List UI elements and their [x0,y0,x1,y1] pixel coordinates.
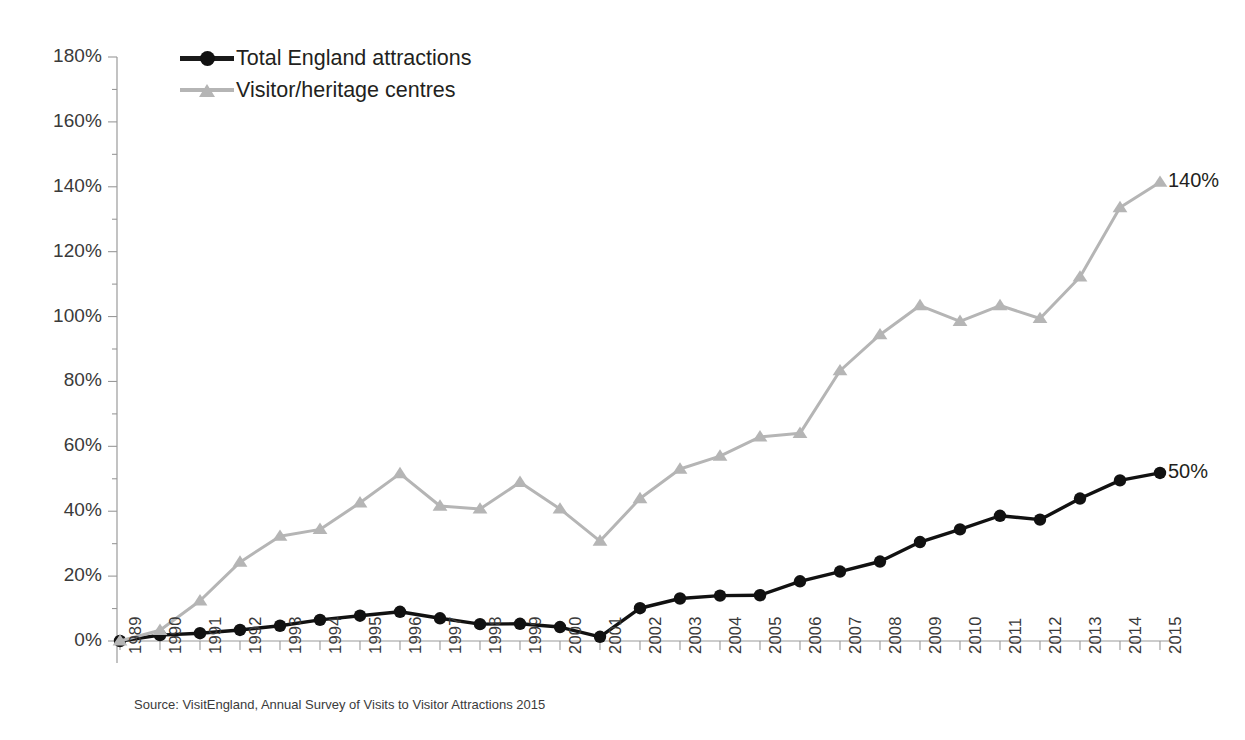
x-axis-tick-label: 1989 [126,616,145,654]
data-point-marker [393,467,408,478]
x-axis-tick-label: 2004 [726,616,745,654]
x-axis-tick-label: 2012 [1046,616,1065,654]
data-point-marker [514,618,526,630]
chart-legend: Total England attractions Visitor/herita… [180,42,471,106]
legend-label-0: Total England attractions [236,46,471,71]
data-point-marker [1034,513,1046,525]
y-axis-tick-label: 160% [42,110,102,132]
data-point-marker [834,565,846,577]
data-point-marker [554,621,566,633]
x-axis-tick-label: 1990 [166,616,185,654]
data-point-marker [954,523,966,535]
data-point-marker [914,536,926,548]
y-axis-tick-label: 60% [42,434,102,456]
x-axis-tick-label: 2009 [926,616,945,654]
y-axis-tick-label: 180% [42,45,102,67]
x-axis-tick-label: 1998 [486,616,505,654]
x-axis-tick-label: 2010 [966,616,985,654]
data-point-marker [434,612,446,624]
x-axis-tick-label: 2015 [1166,616,1185,654]
data-point-marker [794,575,806,587]
data-point-marker [513,476,528,487]
y-axis-tick-label: 100% [42,305,102,327]
x-axis-tick-label: 1993 [286,616,305,654]
legend-item-total-england-attractions: Total England attractions [180,42,471,74]
data-point-marker [793,427,808,438]
x-axis-tick-label: 2003 [686,616,705,654]
data-point-marker [394,606,406,618]
x-axis-tick-label: 1999 [526,616,545,654]
x-axis-tick-label: 2013 [1086,616,1105,654]
y-axis-tick-label: 40% [42,499,102,521]
x-axis-tick-label: 2001 [606,616,625,654]
legend-label-1: Visitor/heritage centres [236,78,456,103]
x-axis-tick-label: 1992 [246,616,265,654]
data-point-marker [274,620,286,632]
data-point-marker [1153,175,1168,186]
data-point-marker [874,555,886,567]
source-note: Source: VisitEngland, Annual Survey of V… [134,697,545,712]
data-point-marker [1154,467,1166,479]
data-point-marker [993,299,1008,310]
data-point-marker [994,510,1006,522]
legend-swatch-grey [180,79,234,101]
data-point-marker [1113,201,1128,212]
y-axis-tick-label: 80% [42,369,102,391]
y-axis-tick-label: 140% [42,175,102,197]
data-point-marker [634,602,646,614]
data-point-marker [194,627,206,639]
series-end-label: 50% [1168,460,1208,483]
data-point-marker [754,589,766,601]
series-line [120,182,1160,641]
x-axis-tick-label: 2002 [646,616,665,654]
data-point-marker [1074,492,1086,504]
line-chart: 0%20%40%60%80%100%120%140%160%180% 19891… [0,0,1245,740]
x-axis-tick-label: 2007 [846,616,865,654]
data-point-marker [594,631,606,643]
y-axis-tick-label: 0% [42,629,102,651]
data-point-marker [1114,474,1126,486]
x-axis-tick-label: 2014 [1126,616,1145,654]
x-axis-tick-label: 2006 [806,616,825,654]
x-axis-tick-label: 1994 [326,616,345,654]
data-point-marker [714,589,726,601]
data-point-marker [354,609,366,621]
y-axis-tick-label: 120% [42,240,102,262]
legend-item-visitor-heritage-centres: Visitor/heritage centres [180,74,471,106]
data-point-marker [1073,270,1088,281]
data-point-marker [674,592,686,604]
x-axis-tick-label: 2008 [886,616,905,654]
y-axis-tick-label: 20% [42,564,102,586]
data-point-marker [913,299,928,310]
x-axis-tick-label: 2011 [1006,618,1025,654]
legend-swatch-black [180,47,234,69]
data-point-marker [474,618,486,630]
x-axis-tick-label: 2000 [566,616,585,654]
triangle-marker-icon [199,84,215,97]
series-visitor-heritage-centres [113,175,1168,645]
data-point-marker [234,624,246,636]
data-point-marker [314,614,326,626]
x-axis-tick-label: 1995 [366,616,385,654]
x-axis-tick-label: 1996 [406,616,425,654]
x-axis-tick-label: 1997 [446,616,465,654]
x-axis-tick-label: 2005 [766,616,785,654]
series-end-label: 140% [1168,169,1219,192]
x-axis-tick-label: 1991 [206,616,225,654]
circle-marker-icon [200,51,215,66]
